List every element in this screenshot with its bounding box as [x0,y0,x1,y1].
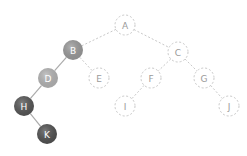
node-label: F [148,74,153,84]
node-label: D [45,74,52,84]
edge-b-d [55,57,67,70]
tree-node-i: I [115,96,135,116]
edge-g-j [211,85,223,98]
node-label: B [70,46,76,56]
tree-diagram: ABCDEFGHIJK [0,0,247,156]
node-label: I [124,102,127,112]
edge-f-i [132,85,144,98]
tree-nodes: ABCDEFGHIJK [14,15,239,144]
node-label: C [175,48,181,58]
node-label: E [96,74,102,84]
tree-node-c: C [168,42,188,62]
tree-node-d: D [38,68,58,88]
edge-a-b [82,29,116,45]
edge-d-h [31,86,42,99]
edge-b-e [80,57,92,70]
node-label: G [201,74,208,84]
tree-node-f: F [141,68,161,88]
edge-a-c [134,30,169,48]
tree-node-e: E [89,68,109,88]
tree-node-j: J [219,96,239,116]
tree-node-a: A [115,15,135,35]
edge-h-k [30,114,40,127]
edge-c-g [185,59,197,71]
tree-node-h: H [14,96,34,116]
edge-c-f [158,59,171,71]
node-label: J [227,102,231,112]
node-label: H [21,102,28,112]
tree-node-b: B [63,40,83,60]
tree-node-k: K [37,124,57,144]
tree-node-g: G [194,68,214,88]
node-label: A [122,21,129,31]
